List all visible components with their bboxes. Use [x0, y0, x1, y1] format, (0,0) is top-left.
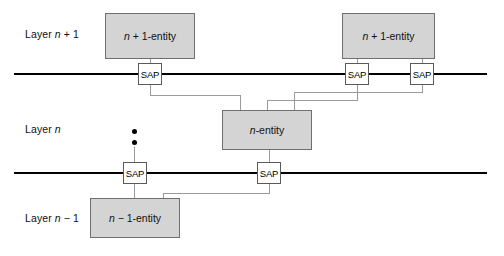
- sap-box-upper-1: SAP: [138, 63, 162, 85]
- sap-label: SAP: [126, 168, 144, 179]
- layer-label-n-text: Layer n: [25, 123, 61, 135]
- protocol-layer-diagram: Layer n + 1 Layer n Layer n − 1 n + 1-en…: [0, 0, 504, 256]
- entity-box-n: n-entity: [222, 110, 312, 150]
- entity-label-n-plus-1-left: n + 1-entity: [124, 30, 176, 42]
- layer-label-n-plus-1: Layer n + 1: [25, 28, 79, 40]
- sap-box-upper-3: SAP: [410, 63, 434, 85]
- entity-label-n-plus-1-right: n + 1-entity: [362, 30, 414, 42]
- layer-label-n-minus-1: Layer n − 1: [25, 212, 79, 224]
- entity-box-n-minus-1: n − 1-entity: [90, 198, 180, 238]
- entity-label-n: n-entity: [250, 124, 284, 136]
- connector-sap2-to-entity-n: [267, 85, 357, 110]
- connector-sap3-to-entity-n: [294, 85, 422, 110]
- connector-sap5-to-entity-n-minus-1: [163, 184, 269, 198]
- sap-label: SAP: [141, 69, 159, 80]
- entity-box-n-plus-1-right: n + 1-entity: [342, 13, 435, 59]
- sap-box-lower-2: SAP: [257, 162, 281, 184]
- layer-label-n-plus-1-text: Layer n + 1: [25, 28, 79, 40]
- continuation-dot-1: [132, 129, 137, 134]
- sap-box-lower-1: SAP: [123, 162, 147, 184]
- sap-label: SAP: [413, 69, 431, 80]
- entity-label-n-minus-1: n − 1-entity: [109, 212, 161, 224]
- connector-sap1-to-entity-n: [150, 85, 240, 110]
- sap-label: SAP: [348, 69, 366, 80]
- entity-box-n-plus-1-left: n + 1-entity: [105, 13, 195, 59]
- sap-label: SAP: [260, 168, 278, 179]
- layer-label-n-minus-1-text: Layer n − 1: [25, 212, 79, 224]
- layer-label-n: Layer n: [25, 123, 61, 135]
- continuation-dot-2: [132, 140, 137, 145]
- sap-box-upper-2: SAP: [345, 63, 369, 85]
